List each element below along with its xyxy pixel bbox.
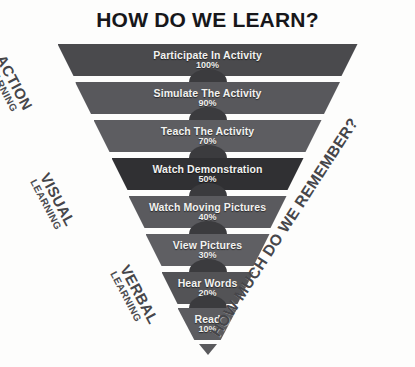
funnel-bar-label: Teach The Activity bbox=[161, 126, 254, 137]
funnel-bar-label: Hear Words bbox=[178, 278, 238, 289]
infographic-canvas: HOW DO WE LEARN? Participate In Activity… bbox=[0, 0, 415, 367]
funnel-bar-label: Watch Demonstration bbox=[152, 164, 262, 175]
page-title: HOW DO WE LEARN? bbox=[0, 8, 415, 32]
funnel-bar-label: Participate In Activity bbox=[153, 50, 262, 61]
funnel-bar-label: Simulate The Activity bbox=[154, 88, 262, 99]
funnel-bar-label: View Pictures bbox=[173, 240, 242, 251]
funnel-row[interactable]: Read10% bbox=[0, 308, 415, 340]
funnel-bottom-tip bbox=[199, 344, 217, 355]
funnel-bar-label: Watch Moving Pictures bbox=[149, 202, 266, 213]
